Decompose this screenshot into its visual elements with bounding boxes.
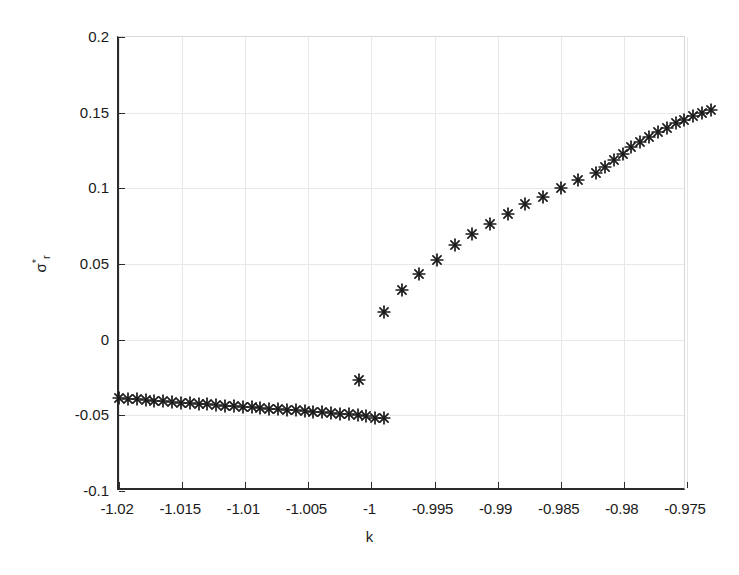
x-tick-label: -1.015 <box>159 500 200 517</box>
data-point-marker <box>358 415 359 416</box>
x-tick-label: -0.99 <box>479 500 512 517</box>
y-tick-label: 0.1 <box>55 179 109 196</box>
x-tick-label: -1.005 <box>286 500 327 517</box>
y-tick <box>119 188 125 189</box>
x-tick <box>624 482 625 488</box>
data-point-marker <box>676 123 677 124</box>
x-gridline <box>245 37 246 488</box>
data-point-marker <box>711 110 712 111</box>
data-point-marker <box>384 418 385 419</box>
y-axis-label: σ*r <box>30 219 52 309</box>
x-gridline <box>687 37 688 488</box>
x-tick-label: -0.975 <box>664 500 705 517</box>
x-gridline <box>119 37 120 488</box>
data-point-marker <box>207 404 208 405</box>
y-gridline <box>119 415 684 416</box>
y-tick-label: 0.05 <box>55 255 109 272</box>
y-label-superscript: * <box>30 259 42 263</box>
data-point-marker <box>631 147 632 148</box>
x-gridline <box>182 37 183 488</box>
y-gridline <box>119 340 684 341</box>
figure-canvas: -1.02-1.015-1.01-1.005-1-0.995-0.99-0.98… <box>0 0 739 575</box>
y-tick <box>119 37 125 38</box>
y-tick-label: 0.2 <box>55 28 109 45</box>
y-label-subscript: r <box>40 255 52 259</box>
data-point-marker <box>340 414 341 415</box>
data-point-marker <box>543 197 544 198</box>
data-point-marker <box>561 188 562 189</box>
x-tick <box>498 482 499 488</box>
data-point-marker <box>693 116 694 117</box>
data-point-marker <box>278 409 279 410</box>
y-tick <box>119 113 125 114</box>
data-point-marker <box>525 204 526 205</box>
x-gridline <box>308 37 309 488</box>
data-point-marker <box>190 403 191 404</box>
data-point-marker <box>225 406 226 407</box>
x-tick-label: -0.98 <box>605 500 638 517</box>
x-tick <box>371 482 372 488</box>
x-tick <box>245 482 246 488</box>
y-tick <box>119 491 125 492</box>
y-tick <box>119 264 125 265</box>
data-point-marker <box>322 412 323 413</box>
y-gridline <box>119 113 684 114</box>
x-tick <box>182 482 183 488</box>
data-point-marker <box>649 137 650 138</box>
data-point-marker <box>578 180 579 181</box>
x-gridline <box>498 37 499 488</box>
y-tick <box>119 340 125 341</box>
x-tick-label: -1 <box>363 500 376 517</box>
x-tick-label: -1.02 <box>100 500 133 517</box>
x-tick-label: -1.01 <box>227 500 260 517</box>
data-point-marker <box>614 160 615 161</box>
data-point-marker <box>154 401 155 402</box>
y-gridline <box>119 188 684 189</box>
data-point-marker <box>472 234 473 235</box>
x-tick <box>308 482 309 488</box>
y-label-sigma: σ <box>32 263 49 272</box>
data-point-marker <box>359 380 360 381</box>
data-point-marker <box>455 245 456 246</box>
y-tick-label: -0.1 <box>55 482 109 499</box>
data-point-marker <box>596 173 597 174</box>
x-tick-label: -0.995 <box>412 500 453 517</box>
y-tick-label: 0.15 <box>55 103 109 120</box>
data-point-marker <box>402 290 403 291</box>
data-point-marker <box>375 418 376 419</box>
data-point-marker <box>508 214 509 215</box>
x-axis-label: k <box>0 528 739 545</box>
x-tick <box>119 482 120 488</box>
y-tick-label: -0.05 <box>55 406 109 423</box>
x-tick <box>435 482 436 488</box>
x-gridline <box>561 37 562 488</box>
x-tick <box>687 482 688 488</box>
y-tick-label: 0 <box>55 330 109 347</box>
data-point-marker <box>137 399 138 400</box>
data-point-marker <box>419 274 420 275</box>
x-tick-label: -0.985 <box>538 500 579 517</box>
y-gridline <box>119 264 684 265</box>
data-point-marker <box>490 224 491 225</box>
y-tick <box>119 415 125 416</box>
plot-axes <box>117 36 685 490</box>
x-tick <box>561 482 562 488</box>
data-point-marker <box>384 312 385 313</box>
data-point-marker <box>243 407 244 408</box>
data-point-marker <box>172 402 173 403</box>
data-point-marker <box>305 411 306 412</box>
data-point-marker <box>437 260 438 261</box>
data-point-marker <box>260 408 261 409</box>
x-gridline <box>624 37 625 488</box>
